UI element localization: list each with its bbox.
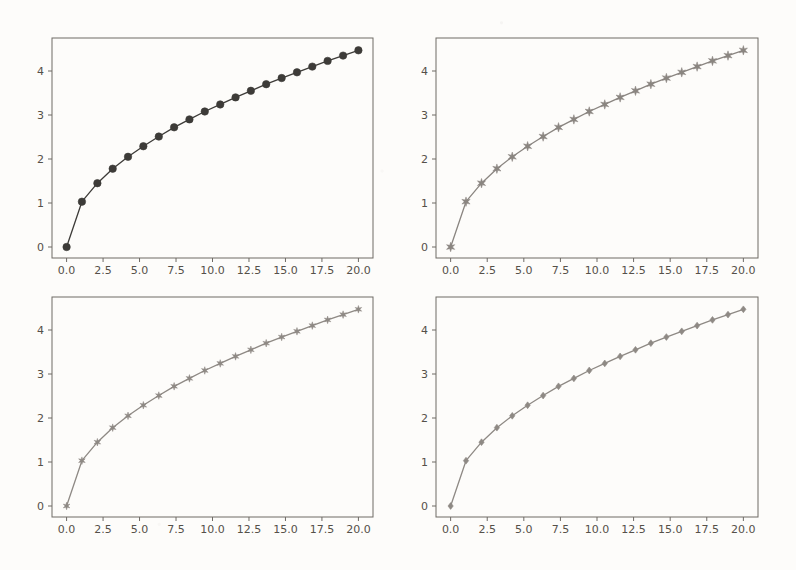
- x-tick-label: 0.0: [58, 523, 76, 536]
- y-tick-label: 0: [37, 500, 44, 513]
- y-tick-label: 0: [37, 241, 44, 254]
- x-tick-label: 17.5: [695, 523, 720, 536]
- subplot-top-left: 0.02.55.07.510.012.515.017.520.001234: [18, 28, 383, 288]
- x-tick-label: 12.5: [621, 264, 646, 277]
- y-tick-label: 3: [37, 368, 44, 381]
- plot-area-top-left: 0.02.55.07.510.012.515.017.520.001234: [18, 28, 383, 288]
- x-tick-label: 17.5: [695, 264, 720, 277]
- x-tick-label: 17.5: [310, 264, 335, 277]
- y-tick-label: 3: [37, 109, 44, 122]
- y-tick-label: 2: [421, 153, 428, 166]
- x-tick-label: 20.0: [731, 523, 756, 536]
- plot-area-top-right: 0.02.55.07.510.012.515.017.520.001234: [402, 28, 768, 288]
- x-tick-label: 7.5: [167, 264, 185, 277]
- x-tick-label: 15.0: [658, 264, 683, 277]
- y-tick-label: 0: [421, 241, 428, 254]
- plot-area-bottom-right: 0.02.55.07.510.012.515.017.520.001234: [402, 287, 768, 547]
- y-tick-label: 4: [421, 65, 428, 78]
- x-tick-label: 2.5: [94, 264, 112, 277]
- x-tick-label: 20.0: [346, 523, 371, 536]
- y-tick-label: 1: [421, 456, 428, 469]
- subplot-top-right: 0.02.55.07.510.012.515.017.520.001234: [402, 28, 768, 288]
- y-tick-label: 1: [37, 197, 44, 210]
- x-tick-label: 20.0: [731, 264, 756, 277]
- y-tick-label: 4: [37, 324, 44, 337]
- x-tick-label: 10.0: [200, 523, 225, 536]
- x-tick-label: 0.0: [442, 523, 460, 536]
- x-tick-label: 10.0: [585, 523, 610, 536]
- subplot-bottom-right: 0.02.55.07.510.012.515.017.520.001234: [402, 287, 768, 547]
- plot-area-bottom-left: 0.02.55.07.510.012.515.017.520.001234: [18, 287, 383, 547]
- x-tick-label: 17.5: [310, 523, 335, 536]
- figure-canvas: 0.02.55.07.510.012.515.017.520.0012340.0…: [0, 0, 796, 570]
- y-tick-label: 0: [421, 500, 428, 513]
- x-tick-label: 2.5: [478, 523, 496, 536]
- x-tick-label: 0.0: [442, 264, 460, 277]
- x-tick-label: 10.0: [585, 264, 610, 277]
- x-tick-label: 7.5: [552, 523, 570, 536]
- x-tick-label: 5.0: [131, 264, 149, 277]
- subplot-bottom-left: 0.02.55.07.510.012.515.017.520.001234: [18, 287, 383, 547]
- y-tick-label: 1: [421, 197, 428, 210]
- x-tick-label: 7.5: [552, 264, 570, 277]
- x-tick-label: 5.0: [515, 523, 533, 536]
- y-tick-label: 1: [37, 456, 44, 469]
- x-tick-label: 15.0: [658, 523, 683, 536]
- x-tick-label: 12.5: [237, 523, 262, 536]
- y-tick-label: 2: [37, 153, 44, 166]
- x-tick-label: 20.0: [346, 264, 371, 277]
- y-tick-label: 4: [421, 324, 428, 337]
- x-tick-label: 5.0: [131, 523, 149, 536]
- x-tick-label: 15.0: [273, 264, 298, 277]
- x-tick-label: 10.0: [200, 264, 225, 277]
- x-tick-label: 12.5: [237, 264, 262, 277]
- y-tick-label: 3: [421, 109, 428, 122]
- x-tick-label: 2.5: [478, 264, 496, 277]
- x-tick-label: 12.5: [621, 523, 646, 536]
- y-tick-label: 2: [37, 412, 44, 425]
- y-tick-label: 3: [421, 368, 428, 381]
- x-tick-label: 15.0: [273, 523, 298, 536]
- x-tick-label: 2.5: [94, 523, 112, 536]
- x-tick-label: 5.0: [515, 264, 533, 277]
- x-tick-label: 7.5: [167, 523, 185, 536]
- y-tick-label: 2: [421, 412, 428, 425]
- y-tick-label: 4: [37, 65, 44, 78]
- x-tick-label: 0.0: [58, 264, 76, 277]
